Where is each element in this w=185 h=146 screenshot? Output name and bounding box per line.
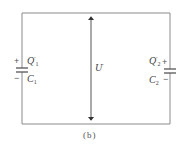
c2-charge-sub: 2: [158, 61, 161, 67]
voltage-label: U′: [95, 63, 104, 73]
c1-cap-sub: 1: [34, 79, 37, 85]
voltage-prime: ′: [102, 63, 103, 69]
figure-caption: (b): [83, 131, 97, 140]
c1-plus-sign: +: [14, 57, 19, 66]
c1-cap-symbol: C: [27, 73, 34, 84]
c1-minus-sign: −: [14, 74, 19, 83]
c2-charge-label: Q′2: [149, 56, 161, 67]
c2-cap-symbol: C: [149, 74, 156, 85]
c2-cap-sub: 2: [156, 80, 159, 86]
c1-charge-label: Q′1: [27, 56, 39, 67]
c2-plus-sign: +: [162, 58, 167, 67]
c2-minus-sign: −: [163, 75, 168, 84]
c1-charge-sub: 1: [36, 61, 39, 67]
c2-capacitance-label: C2: [149, 75, 159, 86]
c1-capacitance-label: C1: [27, 74, 37, 85]
